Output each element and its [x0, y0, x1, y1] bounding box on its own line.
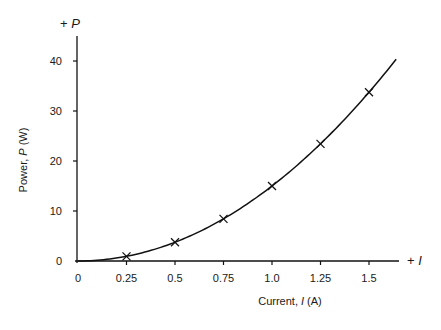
data-point-marker — [268, 182, 276, 190]
x-ticks: 00.250.50.751.01.251.5 — [75, 261, 377, 284]
x-tick-label: 1.5 — [361, 272, 376, 284]
data-point-marker — [220, 215, 228, 223]
x-tick-label: 0 — [75, 272, 81, 284]
x-tick-label: 1.25 — [310, 272, 331, 284]
y-tick-label: 40 — [50, 55, 62, 67]
data-point-marker — [365, 88, 373, 96]
y-tick-label: 20 — [50, 155, 62, 167]
y-tick-label: 30 — [50, 105, 62, 117]
x-axis-end-label: + I — [407, 253, 422, 268]
power-current-chart: 010203040 00.250.50.751.01.251.5 + P + I… — [0, 0, 441, 330]
data-markers — [123, 88, 374, 260]
power-curve — [78, 59, 396, 261]
axes — [75, 36, 399, 263]
y-axis-end-label: + P — [60, 16, 80, 31]
data-point-marker — [171, 238, 179, 246]
x-tick-label: 0.5 — [167, 272, 182, 284]
x-tick-label: 0.75 — [213, 272, 234, 284]
y-ticks: 010203040 — [50, 55, 77, 267]
y-tick-label: 0 — [56, 255, 62, 267]
x-axis-title: Current, I (A) — [258, 295, 322, 307]
y-tick-label: 10 — [50, 205, 62, 217]
y-axis-title: Power, P (W) — [17, 128, 29, 193]
data-point-marker — [317, 140, 325, 148]
x-tick-label: 1.0 — [264, 272, 279, 284]
x-tick-label: 0.25 — [116, 272, 137, 284]
